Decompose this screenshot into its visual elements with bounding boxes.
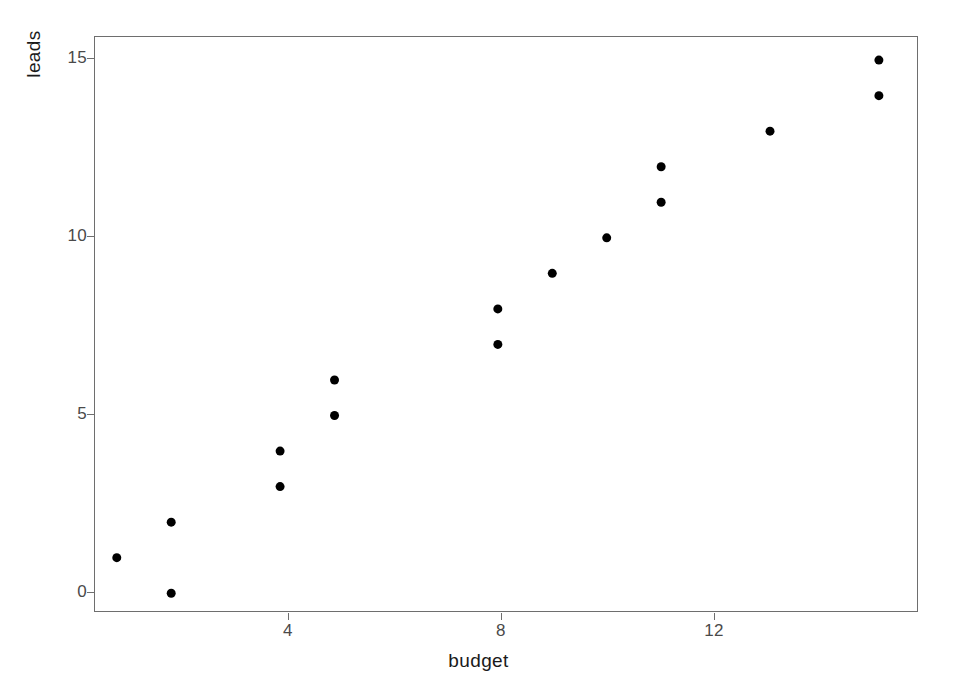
y-tick-label-5: 5 xyxy=(77,404,87,424)
y-tick-label-15: 15 xyxy=(67,48,87,68)
data-point xyxy=(548,269,557,278)
data-point xyxy=(167,589,176,598)
x-tick-label-8: 8 xyxy=(471,621,531,641)
data-point xyxy=(276,447,285,456)
data-point xyxy=(874,91,883,100)
data-point xyxy=(167,518,176,527)
data-point xyxy=(493,340,502,349)
data-point xyxy=(766,127,775,136)
y-tick-label-0: 0 xyxy=(77,582,87,602)
y-axis-title: leads xyxy=(16,0,52,342)
data-point xyxy=(874,56,883,65)
y-tick-mark xyxy=(87,58,94,59)
plot-panel xyxy=(94,36,918,612)
y-tick-mark xyxy=(87,592,94,593)
x-tick-label-12: 12 xyxy=(684,621,744,641)
scatter-plot-figure: 0 5 10 15 4 8 12 budget leads xyxy=(0,0,957,700)
data-point xyxy=(657,162,666,171)
data-point xyxy=(276,482,285,491)
y-tick-mark xyxy=(87,236,94,237)
data-point xyxy=(330,375,339,384)
data-point xyxy=(657,198,666,207)
data-point xyxy=(493,304,502,313)
y-tick-mark xyxy=(87,414,94,415)
data-point xyxy=(602,233,611,242)
data-point xyxy=(112,553,121,562)
x-tick-mark xyxy=(501,613,502,620)
x-tick-mark xyxy=(288,613,289,620)
data-point xyxy=(330,411,339,420)
y-tick-label-10: 10 xyxy=(67,226,87,246)
x-tick-label-4: 4 xyxy=(258,621,318,641)
x-tick-mark xyxy=(714,613,715,620)
x-axis-title: budget xyxy=(0,650,957,672)
data-point-layer xyxy=(95,37,917,611)
